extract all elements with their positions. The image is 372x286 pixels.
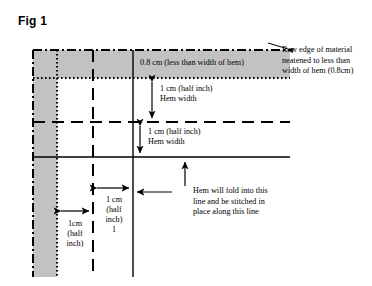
label-hem-width-2: 1 cm (half inch) Hem width xyxy=(148,127,201,147)
label-measure-middle: 1 cm (half inch) 1 xyxy=(97,195,131,235)
shaded-region-left-column xyxy=(33,78,57,277)
label-raw-edge-callout: Raw edge of material neatened to less th… xyxy=(282,45,353,77)
label-measure-left: 1cm (half inch) xyxy=(58,219,92,249)
label-hem-width-1: 1 cm (half inch) Hem width xyxy=(160,84,213,104)
label-top-band-width: 0.8 cm (less than width of hem) xyxy=(140,58,244,68)
figure-container: Fig 1 xyxy=(0,0,372,286)
label-fold-line-callout: Hem will fold into this line and be stit… xyxy=(193,186,268,218)
